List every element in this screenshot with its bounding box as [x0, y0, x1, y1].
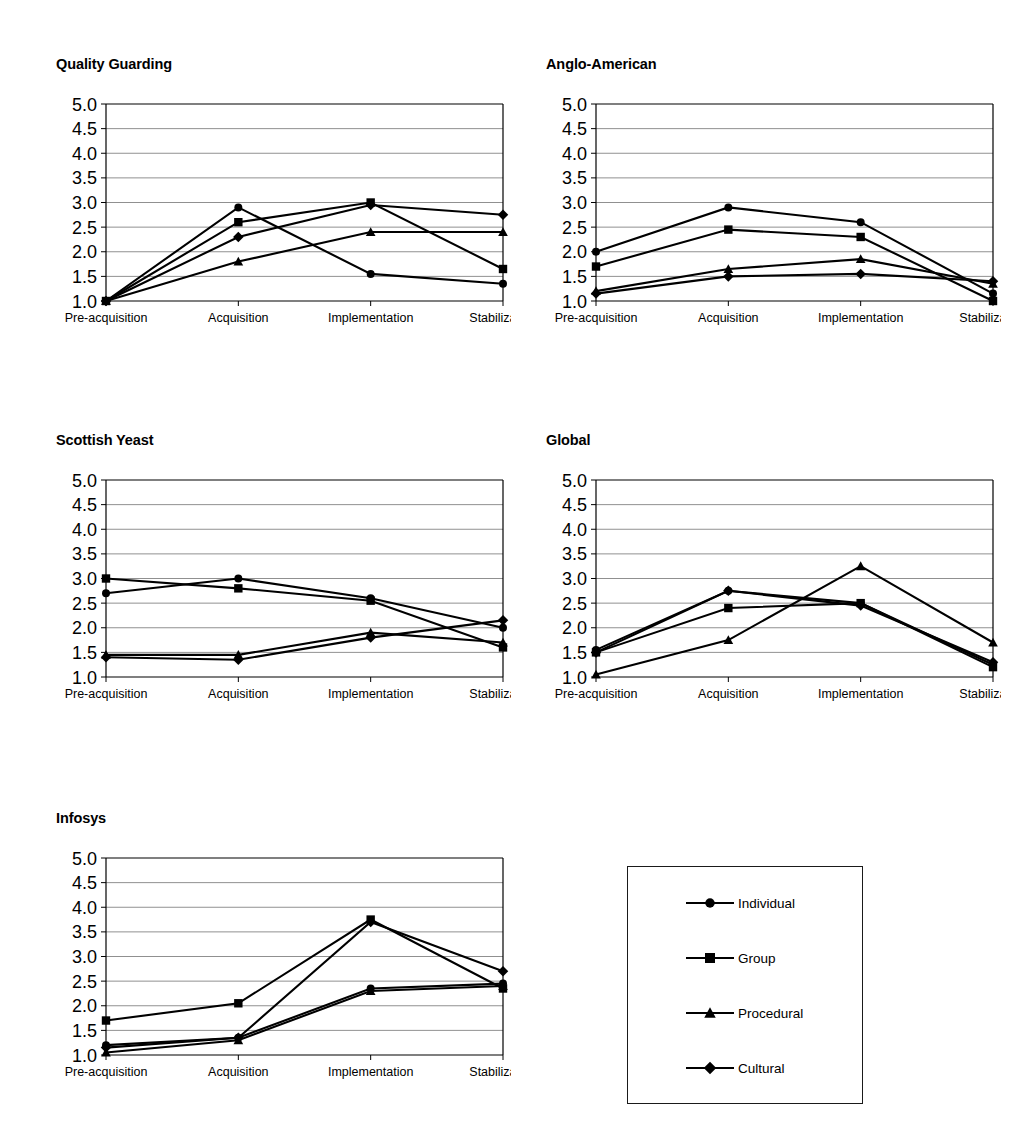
data-point-individual: [724, 203, 732, 211]
y-axis-tick-label: 2.5: [72, 594, 97, 614]
y-axis-tick-label: 1.0: [72, 292, 97, 312]
legend-item-individual[interactable]: Individual: [686, 896, 795, 911]
y-axis-tick-label: 1.5: [562, 643, 587, 663]
y-axis-tick-label: 2.0: [562, 242, 587, 262]
x-axis-tick-label: Acquisition: [208, 687, 268, 701]
y-axis-tick-label: 5.0: [72, 849, 97, 869]
data-point-group: [592, 262, 600, 270]
x-axis-tick-label: Implementation: [328, 311, 414, 325]
data-point-cultural: [855, 269, 866, 280]
data-point-group: [856, 233, 864, 241]
y-axis-tick-label: 1.5: [72, 643, 97, 663]
x-axis-tick-label: Implementation: [818, 311, 904, 325]
y-axis-tick-label: 2.5: [562, 594, 587, 614]
y-axis-tick-label: 4.5: [562, 495, 587, 515]
data-point-individual: [367, 270, 375, 278]
y-axis-tick-label: 3.0: [72, 947, 97, 967]
chart-panel-scottish-yeast: Scottish Yeast 5.04.54.03.53.02.52.01.51…: [56, 432, 511, 710]
chart-panel-quality-guarding: Quality Guarding 5.04.54.03.53.02.52.01.…: [56, 56, 511, 334]
x-axis-tick-label: Stabilization: [469, 687, 511, 701]
y-axis-tick-label: 4.5: [72, 119, 97, 139]
x-axis-tick-label: Pre-acquisition: [65, 687, 148, 701]
data-point-cultural: [498, 615, 509, 626]
y-axis-tick-label: 3.0: [562, 569, 587, 589]
data-point-individual: [857, 218, 865, 226]
chart-svg: 5.04.54.03.53.02.52.01.51.0Pre-acquisiti…: [546, 94, 1001, 334]
x-axis-tick-label: Acquisition: [698, 311, 758, 325]
chart-title: Quality Guarding: [56, 56, 511, 72]
legend-marker-circle-icon: [705, 898, 715, 908]
series-line-group: [596, 230, 993, 301]
y-axis-tick-label: 3.0: [72, 569, 97, 589]
data-point-group: [234, 999, 242, 1007]
chart-plot-scottish-yeast: 5.04.54.03.53.02.52.01.51.0Pre-acquisiti…: [56, 470, 511, 710]
y-axis-tick-label: 3.5: [562, 544, 587, 564]
data-point-individual: [989, 290, 997, 298]
chart-plot-quality-guarding: 5.04.54.03.53.02.52.01.51.0Pre-acquisiti…: [56, 94, 511, 334]
data-point-procedural: [988, 638, 998, 647]
legend-marker-square-icon: [705, 953, 715, 963]
y-axis-tick-label: 4.0: [562, 520, 587, 540]
y-axis-tick-label: 4.0: [72, 520, 97, 540]
x-axis-tick-label: Stabilization: [959, 311, 1001, 325]
y-axis-tick-label: 1.0: [562, 292, 587, 312]
y-axis-tick-label: 5.0: [72, 471, 97, 491]
x-axis-tick-label: Acquisition: [698, 687, 758, 701]
chart-panel-infosys: Infosys 5.04.54.03.53.02.52.01.51.0Pre-a…: [56, 810, 511, 1088]
data-point-cultural: [723, 586, 734, 597]
x-axis-tick-label: Acquisition: [208, 311, 268, 325]
chart-svg: 5.04.54.03.53.02.52.01.51.0Pre-acquisiti…: [56, 94, 511, 334]
data-point-individual: [234, 203, 242, 211]
chart-svg: 5.04.54.03.53.02.52.01.51.0Pre-acquisiti…: [56, 848, 511, 1088]
data-point-group: [989, 297, 997, 305]
y-axis-tick-label: 2.0: [72, 996, 97, 1016]
data-point-group: [724, 604, 732, 612]
y-axis-tick-label: 5.0: [72, 95, 97, 115]
data-point-cultural: [988, 276, 999, 287]
data-point-procedural: [856, 561, 866, 570]
x-axis-tick-label: Stabilization: [469, 1065, 511, 1079]
data-point-individual: [499, 280, 507, 288]
legend-label: Procedural: [738, 1006, 803, 1021]
data-point-group: [724, 225, 732, 233]
data-point-cultural: [101, 652, 112, 663]
legend-item-cultural[interactable]: Cultural: [686, 1061, 785, 1076]
data-point-cultural: [498, 210, 509, 221]
x-axis-tick-label: Stabilization: [469, 311, 511, 325]
data-point-group: [102, 1016, 110, 1024]
x-axis-tick-label: Implementation: [328, 687, 414, 701]
x-axis-tick-label: Stabilization: [959, 687, 1001, 701]
y-axis-tick-label: 1.0: [72, 668, 97, 688]
y-axis-tick-label: 1.5: [562, 267, 587, 287]
y-axis-tick-label: 1.0: [562, 668, 587, 688]
data-point-cultural: [498, 966, 509, 977]
data-point-individual: [592, 248, 600, 256]
chart-plot-infosys: 5.04.54.03.53.02.52.01.51.0Pre-acquisiti…: [56, 848, 511, 1088]
data-point-group: [102, 574, 110, 582]
chart-panel-anglo-american: Anglo-American 5.04.54.03.53.02.52.01.51…: [546, 56, 1001, 334]
y-axis-tick-label: 2.5: [562, 218, 587, 238]
chart-svg: 5.04.54.03.53.02.52.01.51.0Pre-acquisiti…: [546, 470, 1001, 710]
legend-item-procedural[interactable]: Procedural: [686, 1006, 803, 1021]
series-line-procedural: [596, 566, 993, 674]
data-point-group: [499, 265, 507, 273]
legend-item-group[interactable]: Group: [686, 951, 776, 966]
y-axis-tick-label: 2.5: [72, 218, 97, 238]
legend: IndividualGroupProceduralCultural: [627, 866, 863, 1104]
data-point-cultural: [233, 232, 244, 243]
chart-plot-anglo-american: 5.04.54.03.53.02.52.01.51.0Pre-acquisiti…: [546, 94, 1001, 334]
series-line-cultural: [596, 591, 993, 662]
x-axis-tick-label: Pre-acquisition: [65, 311, 148, 325]
y-axis-tick-label: 2.0: [562, 618, 587, 638]
data-point-cultural: [233, 655, 244, 666]
x-axis-tick-label: Pre-acquisition: [555, 311, 638, 325]
y-axis-tick-label: 1.0: [72, 1046, 97, 1066]
x-axis-tick-label: Acquisition: [208, 1065, 268, 1079]
series-line-procedural: [106, 633, 503, 655]
y-axis-tick-label: 4.5: [562, 119, 587, 139]
legend-marker-diamond-icon: [704, 1062, 717, 1075]
series-line-group: [596, 603, 993, 667]
legend-label: Individual: [738, 896, 795, 911]
y-axis-tick-label: 3.5: [562, 168, 587, 188]
x-axis-tick-label: Pre-acquisition: [65, 1065, 148, 1079]
